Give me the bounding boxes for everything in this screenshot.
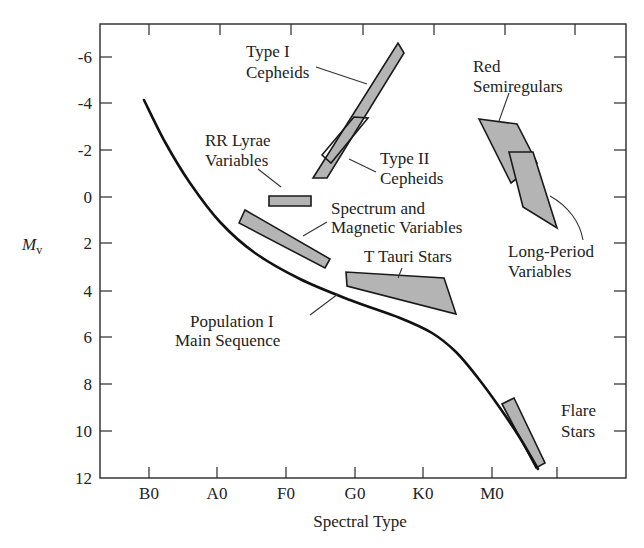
x-tick-label: B0 bbox=[139, 484, 159, 503]
label-type2-cepheids-2: Cepheids bbox=[380, 169, 443, 188]
x-axis-label: Spectral Type bbox=[313, 512, 406, 531]
label-population-i: Population I bbox=[190, 312, 274, 331]
label-type2-cepheids: Type II bbox=[380, 149, 430, 168]
label-red-semiregulars-2: Semiregulars bbox=[473, 77, 563, 96]
y-tick-label: 6 bbox=[84, 328, 93, 347]
label-flare-stars: Flare bbox=[561, 401, 596, 420]
label-type1-cepheids: Type I bbox=[246, 42, 290, 61]
y-tick-label: 12 bbox=[75, 469, 92, 488]
y-tick-label: 8 bbox=[84, 375, 93, 394]
y-axis-label: Mv bbox=[21, 235, 42, 257]
x-tick-label: G0 bbox=[345, 484, 366, 503]
region-spectrum-and-magnetic-variables bbox=[239, 210, 330, 268]
x-tick-label: M0 bbox=[480, 484, 504, 503]
label-flare-stars-2: Stars bbox=[561, 422, 595, 441]
label-t-tauri: T Tauri Stars bbox=[364, 247, 452, 266]
y-tick-label: 4 bbox=[84, 282, 93, 301]
label-rr-lyrae-2: Variables bbox=[205, 151, 268, 170]
label-long-period-2: Variables bbox=[508, 262, 571, 281]
x-tick-label: A0 bbox=[207, 484, 228, 503]
y-tick-label: 2 bbox=[84, 234, 93, 253]
label-long-period: Long-Period bbox=[508, 242, 594, 261]
label-type1-cepheids-2: Cepheids bbox=[246, 63, 309, 82]
region-flare-stars bbox=[502, 398, 545, 468]
label-spectrum-magnetic-2: Magnetic Variables bbox=[331, 218, 462, 237]
region-t-tauri-stars bbox=[346, 272, 456, 314]
y-tick-labels: -6 -4 -2 0 2 4 6 8 10 12 bbox=[75, 48, 93, 488]
region-rr-lyrae-variables bbox=[269, 196, 311, 206]
label-population-i-2: Main Sequence bbox=[175, 331, 280, 350]
label-red-semiregulars: Red bbox=[473, 57, 501, 76]
y-tick-label: -6 bbox=[78, 48, 92, 67]
label-spectrum-magnetic: Spectrum and bbox=[331, 199, 425, 218]
y-tick-label: -2 bbox=[78, 141, 92, 160]
y-tick-label: 10 bbox=[75, 422, 92, 441]
region-long-period-variables bbox=[509, 152, 557, 228]
hr-variable-stars-chart: -6 -4 -2 0 2 4 6 8 10 12 B0 A0 F0 G0 K0 … bbox=[0, 0, 644, 548]
y-tick-label: -4 bbox=[78, 94, 93, 113]
region-labels: Type I Cepheids Type II Cepheids RR Lyra… bbox=[175, 42, 596, 441]
y-tick-label: 0 bbox=[84, 188, 93, 207]
x-tick-label: K0 bbox=[413, 484, 434, 503]
x-tick-label: F0 bbox=[277, 484, 295, 503]
x-tick-labels: B0 A0 F0 G0 K0 M0 bbox=[139, 484, 504, 503]
label-rr-lyrae: RR Lyrae bbox=[205, 131, 271, 150]
